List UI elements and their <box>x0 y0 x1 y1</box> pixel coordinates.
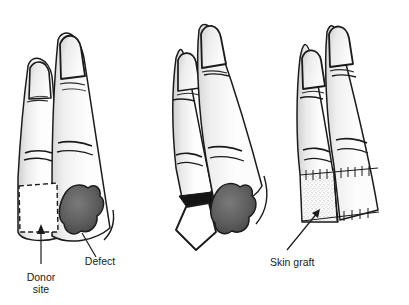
skin-graft-label: Skin graft <box>270 256 314 268</box>
donor-site-label-line2: site <box>33 283 50 295</box>
donor-site-dashed-marker <box>19 183 58 232</box>
illustration-canvas: Donor site Defect <box>0 0 409 305</box>
p1-left-fingernail <box>29 62 51 99</box>
defect-label: Defect <box>85 255 115 267</box>
donor-site-label-line1: Donor <box>27 271 56 283</box>
medical-illustration-figure: Donor site Defect <box>0 0 409 305</box>
